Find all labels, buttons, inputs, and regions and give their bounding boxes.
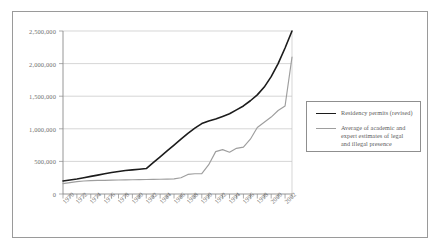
legend-item-average-estimates: Average of academic and expert estimates… [316, 124, 405, 149]
y-axis-tick-label: 0 [0, 191, 56, 198]
legend-label-line-3: and illegal presence [341, 140, 392, 147]
legend-item-residency-permits: Residency permits (revised) [316, 109, 413, 117]
legend-label-line-2: expert estimates of legal [341, 132, 403, 139]
y-axis-tick-label: 500,000 [0, 158, 56, 165]
chart-figure: 0500,0001,000,0001,500,0002,000,0002,500… [12, 11, 428, 238]
y-axis-tick-label: 1,000,000 [0, 125, 56, 132]
y-axis-tick-label: 2,500,000 [0, 28, 56, 35]
legend-swatch-light-icon [316, 128, 336, 129]
y-axis-tick-label: 2,000,000 [0, 60, 56, 67]
y-axis-tick-label: 1,500,000 [0, 93, 56, 100]
legend-label-average-estimates: Average of academic and expert estimates… [341, 124, 405, 149]
data-series-line [63, 57, 292, 183]
legend-label-line-1: Average of academic and [341, 124, 405, 131]
legend-swatch-dark-icon [316, 113, 336, 114]
data-series-line [63, 31, 292, 181]
legend-label-residency-permits: Residency permits (revised) [341, 109, 413, 117]
chart-legend: Residency permits (revised) Average of a… [306, 101, 421, 152]
